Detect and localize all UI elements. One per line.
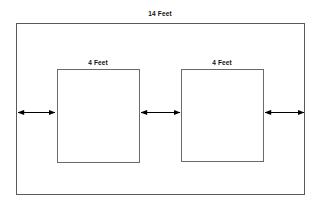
right-square-width-label: 4 Feet bbox=[212, 58, 232, 67]
right-inner-square bbox=[182, 70, 264, 162]
left-inner-square bbox=[58, 70, 140, 163]
left-square-width-label: 4 Feet bbox=[88, 58, 108, 67]
dimension-diagram bbox=[0, 0, 322, 210]
outer-width-label: 14 Feet bbox=[148, 9, 171, 18]
diagram-canvas: 14 Feet 4 Feet 4 Feet bbox=[0, 0, 322, 210]
outer-room-rectangle bbox=[17, 24, 305, 195]
